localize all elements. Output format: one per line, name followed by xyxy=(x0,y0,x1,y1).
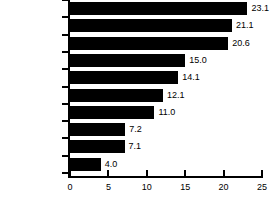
bar xyxy=(70,37,228,50)
x-axis-tick xyxy=(184,170,186,176)
bar xyxy=(70,123,125,136)
bar xyxy=(70,54,185,67)
y-axis-tick xyxy=(62,137,68,139)
y-axis-tick xyxy=(62,120,68,122)
x-axis-tick-label: 15 xyxy=(173,182,197,193)
x-axis-tick xyxy=(261,170,263,176)
bar-value-label: 4.0 xyxy=(105,158,118,171)
x-axis-tick xyxy=(146,170,148,176)
bar xyxy=(70,19,232,32)
bar-value-label: 20.6 xyxy=(232,37,250,50)
x-axis-tick-label: 25 xyxy=(250,182,274,193)
bar xyxy=(70,2,247,15)
x-axis-tick xyxy=(107,170,109,176)
y-axis-tick xyxy=(62,16,68,18)
bar-value-label: 23.1 xyxy=(251,2,269,15)
y-axis-tick xyxy=(62,51,68,53)
bar-value-label: 11.0 xyxy=(158,106,175,119)
y-axis-tick xyxy=(62,68,68,70)
x-axis-tick-label: 5 xyxy=(96,182,120,193)
bar xyxy=(70,71,178,84)
bar xyxy=(70,140,125,153)
y-axis-tick xyxy=(62,172,68,174)
y-axis-tick xyxy=(62,103,68,105)
x-axis-tick-label: 20 xyxy=(212,182,236,193)
y-axis-tick xyxy=(62,34,68,36)
bar xyxy=(70,106,154,119)
x-axis-line xyxy=(68,176,263,178)
y-axis-tick xyxy=(62,0,68,1)
bar-value-label: 14.1 xyxy=(182,71,200,84)
x-axis-tick-label: 10 xyxy=(135,182,159,193)
y-axis-tick xyxy=(62,86,68,88)
bar xyxy=(70,158,101,171)
x-axis-tick-label: 0 xyxy=(58,182,82,193)
bar-chart: Arizona23.1Nevada21.1New Mexico20.6Calif… xyxy=(0,0,274,202)
bar xyxy=(70,89,163,102)
x-axis-tick xyxy=(69,170,71,176)
bar-value-label: 12.1 xyxy=(167,89,185,102)
y-axis-tick xyxy=(62,155,68,157)
x-axis-tick xyxy=(223,170,225,176)
plot-area: Arizona23.1Nevada21.1New Mexico20.6Calif… xyxy=(0,0,274,202)
bar-value-label: 7.2 xyxy=(129,123,142,136)
bar-value-label: 7.1 xyxy=(129,140,142,153)
bar-value-label: 21.1 xyxy=(236,19,254,32)
bar-value-label: 15.0 xyxy=(189,54,207,67)
